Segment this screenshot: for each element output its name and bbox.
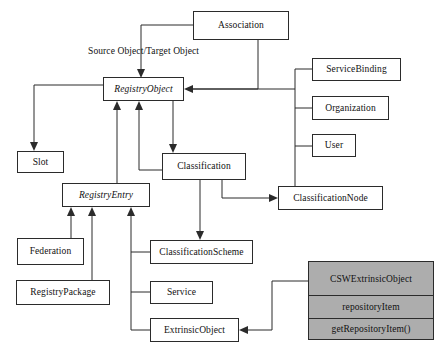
class-node-label: RegistryEntry	[79, 190, 133, 200]
class-attributes-compartment: repositoryItem	[309, 295, 433, 317]
class-node-label: Federation	[30, 246, 72, 256]
class-node-servicebinding[interactable]: ServiceBinding	[312, 58, 401, 81]
class-node-label: Slot	[33, 157, 49, 167]
class-node-label: ClassificationScheme	[159, 247, 243, 257]
connector-registrypackage-to-registryentry	[88, 207, 96, 280]
class-node-association[interactable]: Association	[193, 11, 289, 40]
connector-classification-to-registryobject	[135, 101, 162, 170]
class-operation-getrepositoryitem: getRepositoryItem()	[332, 324, 411, 334]
connector-registryobject-to-classification	[169, 101, 177, 153]
class-node-label: User	[325, 140, 343, 150]
class-node-label: Classification	[177, 161, 231, 171]
class-node-label: RegistryObject	[114, 84, 172, 94]
class-node-label: ServiceBinding	[326, 64, 387, 74]
class-node-label: RegistryPackage	[30, 287, 95, 297]
class-node-registryobject[interactable]: RegistryObject	[103, 77, 184, 101]
class-node-classificationscheme[interactable]: ClassificationScheme	[150, 240, 253, 264]
class-node-label: Association	[218, 20, 264, 30]
class-attribute-repositoryitem: repositoryItem	[342, 302, 399, 312]
connector-cswextrinsicobject-to-extrinsicobject	[239, 281, 308, 334]
class-operations-compartment: getRepositoryItem()	[309, 318, 433, 339]
connector-federation-to-registryentry	[67, 207, 75, 238]
class-name-compartment: CSWExtrinsicObject	[309, 262, 433, 295]
class-node-service[interactable]: Service	[150, 281, 213, 304]
class-node-extrinsicobject[interactable]: ExtrinsicObject	[150, 318, 239, 342]
connector-classification-to-classificationnode	[222, 180, 278, 202]
class-node-cswextrinsicobject[interactable]: CSWExtrinsicObject repositoryItem getRep…	[308, 261, 434, 340]
class-node-classificationnode[interactable]: ClassificationNode	[278, 186, 383, 210]
class-node-label: ExtrinsicObject	[164, 325, 225, 335]
class-node-label: Organization	[325, 103, 376, 113]
class-node-user[interactable]: User	[312, 134, 356, 157]
class-node-classification[interactable]: Classification	[162, 153, 246, 180]
edge-label-text: Source Object/Target Object	[88, 46, 199, 56]
class-node-federation[interactable]: Federation	[17, 238, 84, 265]
class-node-label: ClassificationNode	[293, 193, 368, 203]
class-node-registrypackage[interactable]: RegistryPackage	[16, 280, 110, 305]
class-node-label: Service	[167, 287, 196, 297]
class-node-slot[interactable]: Slot	[17, 151, 64, 173]
connector-registryobject-to-slot	[30, 85, 103, 151]
class-node-label: CSWExtrinsicObject	[330, 274, 412, 284]
connector-classification-to-classificationscheme	[196, 180, 204, 240]
edge-label-source-target-object: Source Object/Target Object	[88, 46, 199, 56]
class-diagram-canvas: Association RegistryObject ServiceBindin…	[0, 0, 441, 359]
class-node-registryentry[interactable]: RegistryEntry	[62, 183, 150, 207]
class-node-organization[interactable]: Organization	[312, 96, 389, 120]
connector-registryentry-to-registryobject	[113, 101, 121, 183]
connector-registryentry-subclass-trunk	[127, 207, 150, 330]
